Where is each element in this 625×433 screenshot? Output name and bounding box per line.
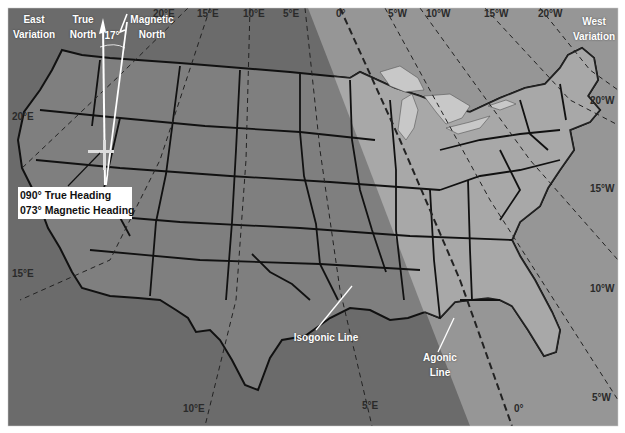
true-north-line1: True (64, 12, 102, 27)
true-north-line2: North (64, 27, 102, 42)
heading-callout: 090° True Heading 073° Magnetic Heading (18, 187, 132, 219)
magnetic-north-line2: North (128, 27, 176, 42)
tick-top-15E: 15°E (197, 8, 219, 19)
tick-right-10W: 10°W (590, 283, 615, 294)
true-heading-text: 090° True Heading (20, 188, 130, 203)
tick-bottom-5E: 5°E (362, 400, 378, 411)
agonic-line2: Line (416, 365, 464, 380)
variation-angle: 17° (104, 28, 120, 43)
true-north-label: True North (64, 12, 102, 42)
tick-top-15W: 15°W (484, 8, 509, 19)
tick-right-15W: 15°W (590, 183, 615, 194)
tick-top-5W: 5°W (388, 8, 407, 19)
agonic-line1: Agonic (416, 350, 464, 365)
east-label-line1: East (8, 12, 60, 27)
west-variation-label: West Variation (568, 14, 620, 44)
tick-right-5W: 5°W (592, 392, 611, 403)
tick-top-20E: 20°E (153, 8, 175, 19)
agonic-line-label: Agonic Line (416, 350, 464, 380)
tick-top-5E: 5°E (283, 8, 299, 19)
tick-bottom-10E: 10°E (183, 403, 205, 414)
tick-left-20E: 20°E (12, 111, 34, 122)
tick-top-0: 0° (336, 8, 346, 19)
tick-top-10E: 10°E (243, 8, 265, 19)
west-label-line2: Variation (568, 29, 620, 44)
east-variation-label: East Variation (8, 12, 60, 42)
east-label-line2: Variation (8, 27, 60, 42)
tick-right-20W: 20°W (590, 95, 615, 106)
magnetic-heading-text: 073° Magnetic Heading (20, 203, 130, 218)
tick-bottom-0: 0° (514, 403, 524, 414)
tick-top-20W: 20°W (538, 8, 563, 19)
tick-top-10W: 10°W (426, 8, 451, 19)
isogonic-line-label: Isogonic Line (286, 330, 366, 345)
tick-left-15E: 15°E (12, 268, 34, 279)
west-label-line1: West (568, 14, 620, 29)
